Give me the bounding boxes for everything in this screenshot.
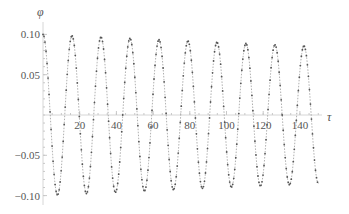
data-point: [174, 183, 176, 185]
data-point: [252, 110, 254, 112]
data-point: [223, 105, 225, 107]
y-tick-labels: 0.100.05−0.05−0.10: [15, 28, 41, 201]
data-point: [141, 179, 143, 181]
data-point: [146, 179, 148, 181]
data-point: [188, 43, 190, 45]
data-point: [312, 133, 314, 135]
data-point: [243, 50, 245, 52]
data-point: [78, 116, 80, 118]
data-point: [192, 86, 194, 88]
x-tick-label: 80: [184, 119, 196, 131]
data-point: [68, 48, 70, 50]
data-point: [204, 180, 206, 182]
data-point: [166, 129, 168, 131]
data-point: [189, 50, 191, 52]
data-point: [300, 55, 302, 57]
data-point: [160, 47, 162, 49]
data-point: [65, 89, 67, 91]
data-point: [55, 191, 57, 193]
data-point: [73, 45, 75, 47]
data-point: [262, 174, 264, 176]
data-point: [229, 181, 231, 183]
data-point: [224, 121, 226, 123]
data-point: [278, 71, 280, 73]
data-point: [151, 110, 153, 112]
data-point: [191, 71, 193, 73]
data-point: [115, 191, 117, 193]
data-point: [144, 190, 146, 192]
data-point: [127, 46, 129, 48]
data-point: [42, 34, 44, 36]
line-chart: 0.100.05−0.05−0.10 20406080100120140 φ τ: [0, 0, 349, 214]
data-point: [242, 58, 244, 60]
data-point: [266, 124, 268, 126]
data-point: [279, 84, 281, 86]
data-point: [90, 166, 92, 168]
data-point: [180, 105, 182, 107]
data-point: [142, 186, 144, 188]
data-point: [299, 65, 301, 67]
data-point: [93, 119, 95, 121]
data-point: [72, 38, 74, 40]
data-point: [269, 79, 271, 81]
data-point: [137, 125, 139, 127]
data-point: [182, 75, 184, 77]
data-point: [206, 161, 208, 163]
data-point: [76, 82, 78, 84]
data-point: [308, 75, 310, 77]
data-point: [103, 48, 105, 50]
data-point: [156, 45, 158, 47]
data-point: [109, 137, 111, 139]
data-point: [276, 52, 278, 54]
data-point: [301, 49, 303, 51]
data-point: [289, 183, 291, 185]
data-point: [209, 117, 211, 119]
data-point: [270, 67, 272, 69]
data-point: [176, 165, 178, 167]
data-point: [53, 173, 55, 175]
data-point: [125, 67, 127, 69]
data-point: [88, 186, 90, 188]
data-point: [296, 104, 298, 106]
data-point: [208, 133, 210, 135]
data-point: [285, 168, 287, 170]
data-point: [139, 156, 141, 158]
data-point: [50, 128, 52, 130]
data-point: [134, 76, 136, 78]
data-point: [51, 145, 53, 147]
data-point: [255, 154, 257, 156]
data-point: [225, 137, 227, 139]
data-point: [150, 126, 152, 128]
data-point: [49, 111, 51, 113]
data-point: [168, 159, 170, 161]
x-tick-label: 60: [148, 119, 160, 131]
data-point: [136, 108, 138, 110]
data-point: [237, 128, 239, 130]
data-point: [130, 39, 132, 41]
data-point: [147, 169, 149, 171]
data-point: [234, 168, 236, 170]
data-point: [264, 153, 266, 155]
x-axis-label: τ: [327, 110, 332, 124]
data-point: [117, 183, 119, 185]
data-point: [86, 193, 88, 195]
data-point: [58, 189, 60, 191]
data-point: [91, 151, 93, 153]
data-point: [309, 89, 311, 91]
data-point: [239, 97, 241, 99]
data-point: [235, 157, 237, 159]
data-point: [60, 170, 62, 172]
data-point: [291, 171, 293, 173]
data-point: [135, 92, 137, 94]
data-point: [105, 72, 107, 74]
data-point: [256, 166, 258, 168]
data-point: [246, 44, 248, 46]
y-tick-label: −0.05: [15, 149, 41, 161]
y-axis-label: φ: [37, 5, 44, 19]
data-point: [52, 160, 54, 162]
data-point: [120, 147, 122, 149]
data-point: [48, 94, 50, 96]
data-point: [99, 40, 101, 42]
data-point: [83, 185, 85, 187]
data-point: [220, 63, 222, 65]
